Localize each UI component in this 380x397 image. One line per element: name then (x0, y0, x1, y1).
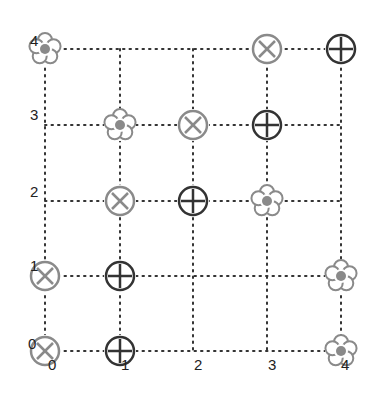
y-axis-label: 1 (30, 258, 38, 273)
grid-lines (0, 0, 380, 397)
circle-plus-icon (251, 109, 283, 141)
circle-plus-icon (104, 260, 136, 292)
x-axis-label: 3 (268, 357, 276, 372)
circle-plus-icon (104, 335, 136, 367)
y-axis-label: 3 (30, 107, 38, 122)
circle-x-icon (104, 185, 136, 217)
grid-diagram: 0123401234 (0, 0, 380, 397)
y-axis-label: 2 (30, 184, 38, 199)
circle-plus-icon (325, 33, 357, 65)
circle-x-icon (251, 33, 283, 65)
y-axis-label: 0 (28, 336, 36, 351)
x-axis-label: 0 (48, 357, 56, 372)
x-axis-label: 1 (121, 357, 129, 372)
circle-x-icon (177, 109, 209, 141)
flower-icon (104, 109, 136, 141)
y-axis-label: 4 (30, 33, 38, 48)
x-axis-label: 2 (194, 357, 202, 372)
circle-plus-icon (177, 185, 209, 217)
flower-icon (251, 185, 283, 217)
x-axis-label: 4 (341, 357, 349, 372)
flower-icon (325, 260, 357, 292)
